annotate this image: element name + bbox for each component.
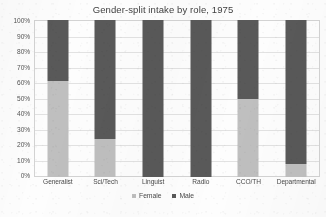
- y-axis-tick-label: 70%: [17, 63, 30, 70]
- bar-segment-male[interactable]: [286, 20, 307, 164]
- stacked-bar[interactable]: [143, 20, 164, 177]
- x-axis-tick-label: Generalist: [43, 178, 73, 185]
- y-axis-tick-label: 0%: [21, 172, 30, 179]
- stacked-bar[interactable]: [286, 20, 307, 177]
- x-axis-tick-label: Radio: [192, 178, 209, 185]
- bar-group[interactable]: [82, 20, 130, 177]
- bar-group[interactable]: [129, 20, 177, 177]
- legend-swatch: [132, 194, 136, 198]
- y-axis: 100%90%80%70%60%50%40%30%20%10%0%: [0, 20, 33, 177]
- bar-segment-female[interactable]: [238, 99, 259, 178]
- bar-segment-female[interactable]: [286, 164, 307, 177]
- stacked-bar[interactable]: [95, 20, 116, 177]
- bar-group[interactable]: [225, 20, 273, 177]
- x-axis: GeneralistSci/TechLinguistRadioCCO/THDep…: [34, 178, 320, 190]
- stacked-bar[interactable]: [47, 20, 68, 177]
- bar-segment-female[interactable]: [95, 139, 116, 177]
- x-axis-tick-label: Linguist: [142, 178, 164, 185]
- bar-segment-male[interactable]: [143, 20, 164, 177]
- y-axis-tick-label: 100%: [14, 17, 30, 24]
- y-axis-tick-label: 30%: [17, 125, 30, 132]
- x-axis-tick-label: Departmental: [277, 178, 316, 185]
- chart-container: Gender-split intake by role, 1975 100%90…: [0, 0, 326, 217]
- bar-segment-male[interactable]: [238, 20, 259, 99]
- x-axis-tick-label: CCO/TH: [236, 178, 261, 185]
- legend-item[interactable]: Female: [132, 192, 161, 199]
- legend-item[interactable]: Male: [172, 192, 194, 199]
- y-axis-tick-label: 10%: [17, 156, 30, 163]
- y-axis-tick-label: 80%: [17, 48, 30, 55]
- bar-segment-male[interactable]: [190, 20, 211, 177]
- bar-segment-female[interactable]: [47, 81, 68, 177]
- bar-group[interactable]: [177, 20, 225, 177]
- stacked-bar[interactable]: [238, 20, 259, 177]
- stacked-bar[interactable]: [190, 20, 211, 177]
- chart-title: Gender-split intake by role, 1975: [0, 4, 326, 15]
- bar-segment-male[interactable]: [95, 20, 116, 139]
- chart-legend: FemaleMale: [0, 192, 326, 199]
- bar-group[interactable]: [272, 20, 320, 177]
- y-axis-tick-label: 20%: [17, 141, 30, 148]
- legend-swatch: [172, 194, 176, 198]
- y-axis-tick-label: 40%: [17, 110, 30, 117]
- y-axis-tick-label: 90%: [17, 32, 30, 39]
- x-axis-tick-label: Sci/Tech: [93, 178, 118, 185]
- y-axis-tick-label: 50%: [17, 94, 30, 101]
- legend-label: Male: [179, 192, 194, 199]
- bar-segment-male[interactable]: [47, 20, 68, 81]
- bars-layer: [34, 20, 320, 177]
- bar-group[interactable]: [34, 20, 82, 177]
- legend-label: Female: [139, 192, 161, 199]
- y-axis-tick-label: 60%: [17, 79, 30, 86]
